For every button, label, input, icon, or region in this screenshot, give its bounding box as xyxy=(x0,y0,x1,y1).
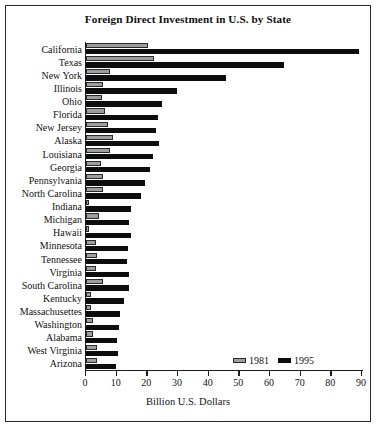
category-label: Florida xyxy=(53,108,82,122)
category-label: Indiana xyxy=(52,200,82,214)
bar-1981 xyxy=(86,187,103,192)
category-label: Michigan xyxy=(44,213,82,227)
x-tick-label: 50 xyxy=(233,377,243,388)
bar-1981 xyxy=(86,200,89,205)
category-label: Pennsylvania xyxy=(29,174,82,188)
legend-label-1995: 1995 xyxy=(294,355,314,366)
chart-row: Washington xyxy=(86,318,362,331)
category-label: Alabama xyxy=(46,331,82,345)
category-label: New Jersey xyxy=(36,121,82,135)
x-tick-label: 20 xyxy=(141,377,151,388)
chart-row: Texas xyxy=(86,56,362,69)
x-tick xyxy=(208,371,209,376)
x-tick xyxy=(300,371,301,376)
bar-1981 xyxy=(86,122,108,127)
legend-label-1981: 1981 xyxy=(249,355,269,366)
x-tick xyxy=(238,371,239,376)
category-label: Georgia xyxy=(50,161,82,175)
category-label: New York xyxy=(41,69,82,83)
bar-1981 xyxy=(86,56,154,61)
chart-row: Illinois xyxy=(86,82,362,95)
bar-1981 xyxy=(86,318,93,323)
bar-1995 xyxy=(86,220,129,225)
category-label: West Virginia xyxy=(27,344,82,358)
bar-1995 xyxy=(86,167,150,172)
plot-area: CaliforniaTexasNew YorkIllinoisOhioFlori… xyxy=(86,42,362,370)
bar-1981 xyxy=(86,331,93,336)
bar-1995 xyxy=(86,128,156,133)
bar-1995 xyxy=(86,298,124,303)
x-tick-label: 90 xyxy=(356,377,366,388)
legend-item-1995: 1995 xyxy=(278,355,314,366)
chart-row: Kentucky xyxy=(86,292,362,305)
bar-1981 xyxy=(86,82,103,87)
chart-row: Tennessee xyxy=(86,253,362,266)
chart-row: Massachusettes xyxy=(86,305,362,318)
chart-row: Minnesota xyxy=(86,239,362,252)
category-label: California xyxy=(41,43,82,57)
category-label: Tennessee xyxy=(41,253,82,267)
x-tick xyxy=(85,371,86,376)
chart-row: Virginia xyxy=(86,266,362,279)
category-label: Arizona xyxy=(50,357,82,371)
bar-1995 xyxy=(86,285,129,290)
chart-row: Hawaii xyxy=(86,226,362,239)
bar-1981 xyxy=(86,240,96,245)
bar-1981 xyxy=(86,358,97,363)
legend-swatch-1981 xyxy=(233,358,246,364)
category-label: Ohio xyxy=(62,95,82,109)
bar-1981 xyxy=(86,266,96,271)
bar-1995 xyxy=(86,101,162,106)
legend: 1981 1995 xyxy=(233,355,314,366)
bar-1995 xyxy=(86,206,131,211)
chart-row: Alabama xyxy=(86,331,362,344)
bar-1995 xyxy=(86,338,117,343)
chart-row: Indiana xyxy=(86,200,362,213)
chart-row: New Jersey xyxy=(86,121,362,134)
chart-row: Arizona xyxy=(86,357,362,370)
bar-1995 xyxy=(86,75,226,80)
category-label: Illinois xyxy=(54,82,82,96)
bar-1981 xyxy=(86,345,97,350)
chart-row: Florida xyxy=(86,108,362,121)
category-label: Texas xyxy=(59,56,82,70)
chart-row: Georgia xyxy=(86,161,362,174)
category-label: Alaska xyxy=(54,134,82,148)
bar-1981 xyxy=(86,292,91,297)
x-tick xyxy=(330,371,331,376)
bar-1981 xyxy=(86,43,148,48)
category-label: South Carolina xyxy=(22,279,82,293)
x-axis-title: Billion U.S. Dollars xyxy=(0,396,376,407)
x-tick-label: 10 xyxy=(111,377,121,388)
category-label: Virginia xyxy=(49,266,82,280)
bar-1995 xyxy=(86,325,119,330)
bar-1995 xyxy=(86,351,118,356)
bar-1995 xyxy=(86,246,128,251)
bar-1995 xyxy=(86,154,153,159)
x-tick xyxy=(116,371,117,376)
chart-row: Louisiana xyxy=(86,148,362,161)
x-tick xyxy=(177,371,178,376)
bar-1981 xyxy=(86,174,103,179)
bar-1981 xyxy=(86,69,110,74)
chart-figure: Foreign Direct Investment in U.S. by Sta… xyxy=(0,0,376,427)
chart-row: South Carolina xyxy=(86,279,362,292)
category-label: Washington xyxy=(34,318,82,332)
legend-swatch-1995 xyxy=(278,358,291,364)
category-label: Kentucky xyxy=(43,292,82,306)
chart-row: West Virginia xyxy=(86,344,362,357)
chart-title: Foreign Direct Investment in U.S. by Sta… xyxy=(0,13,376,25)
bar-1981 xyxy=(86,135,113,140)
chart-row: California xyxy=(86,43,362,56)
bar-1995 xyxy=(86,259,127,264)
chart-row: New York xyxy=(86,69,362,82)
bar-1981 xyxy=(86,305,91,310)
x-tick xyxy=(361,371,362,376)
category-label: North Carolina xyxy=(22,187,82,201)
bar-1981 xyxy=(86,148,110,153)
chart-row: Alaska xyxy=(86,134,362,147)
chart-row: North Carolina xyxy=(86,187,362,200)
x-tick-label: 60 xyxy=(264,377,274,388)
bar-1981 xyxy=(86,161,101,166)
bar-1995 xyxy=(86,141,159,146)
